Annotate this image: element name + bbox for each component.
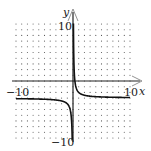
y-max-tick-label: 10 (58, 20, 72, 33)
y-axis-label: y (62, 6, 70, 19)
y-min-tick-label: −10 (51, 136, 74, 149)
x-min-tick-label: −10 (6, 86, 29, 99)
x-max-tick-label: 10 (124, 86, 138, 99)
graph: y 10 −10 −10 10 x (0, 0, 151, 151)
x-axis (12, 76, 142, 86)
x-axis-label: x (139, 85, 146, 98)
curve-left-branch (16, 99, 73, 140)
